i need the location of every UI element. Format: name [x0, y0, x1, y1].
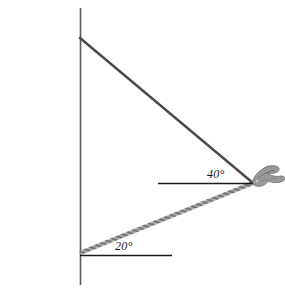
brick-wall	[0, 0, 82, 288]
upper-sightline	[80, 38, 253, 183]
diagram-canvas	[0, 0, 285, 288]
geometry-diagram: 40° 20°	[0, 0, 285, 288]
angle-label-20: 20°	[115, 239, 132, 254]
angle-label-40: 40°	[207, 167, 224, 182]
lower-sightline	[80, 183, 253, 253]
observer-object	[253, 166, 285, 187]
